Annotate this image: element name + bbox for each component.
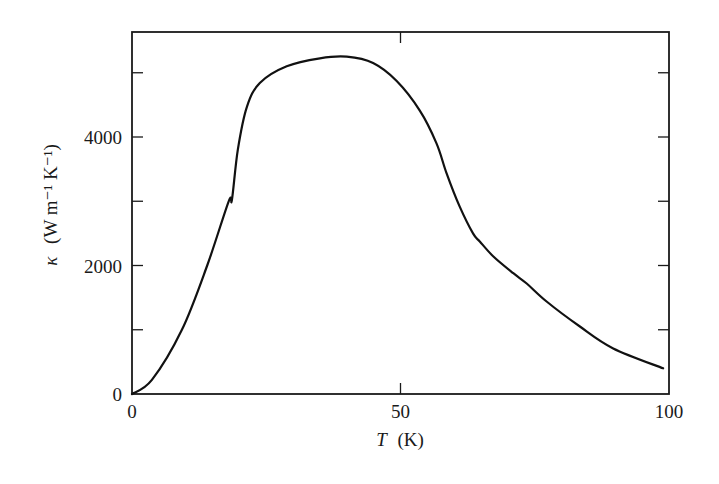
y-tick-label: 4000 [84, 127, 122, 148]
x-axis-unit: (K) [397, 429, 423, 451]
y-axis-symbol: κ [40, 256, 61, 266]
data-curve [132, 56, 663, 394]
y-axis-unit: (W m⁻¹ K⁻¹) [40, 144, 62, 244]
y-tick-label: 2000 [84, 256, 122, 277]
y-tick-label: 0 [113, 384, 123, 405]
x-tick-label: 50 [391, 401, 410, 422]
x-tick-label: 0 [127, 401, 137, 422]
x-axis-symbol: T [376, 429, 388, 450]
y-tick-labels: 020004000 [84, 127, 122, 405]
x-tick-labels: 050100 [127, 401, 683, 422]
x-axis-label: T (K) [376, 429, 424, 451]
y-axis-label: κ (W m⁻¹ K⁻¹) [40, 144, 62, 266]
x-tick-label: 100 [655, 401, 684, 422]
thermal-conductivity-chart: 050100 020004000 T (K) κ (W m⁻¹ K⁻¹) [0, 0, 719, 484]
